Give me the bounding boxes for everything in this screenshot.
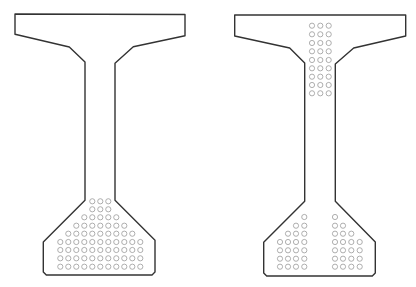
- strand-circle: [114, 264, 119, 269]
- strand-circle: [349, 239, 354, 244]
- strand-circle: [277, 239, 282, 244]
- strand-circle: [106, 207, 111, 212]
- strand-circle: [318, 57, 323, 62]
- strand-circle: [98, 215, 103, 220]
- strand-circle: [302, 214, 307, 219]
- top-web-strands: [309, 23, 331, 96]
- strand-circle: [74, 231, 79, 236]
- strand-circle: [318, 82, 323, 87]
- strand-circle: [130, 256, 135, 261]
- strand-circle: [326, 23, 331, 28]
- strand-circle: [293, 264, 298, 269]
- strand-circle: [285, 248, 290, 253]
- bottom-left-strands: [277, 214, 307, 269]
- strand-circle: [122, 239, 127, 244]
- strand-circle: [326, 82, 331, 87]
- strand-circle: [326, 66, 331, 71]
- right-beam-section: [235, 15, 406, 276]
- strand-circle: [106, 247, 111, 252]
- strand-circle: [98, 207, 103, 212]
- strand-circle: [138, 247, 143, 252]
- strand-circle: [130, 231, 135, 236]
- strand-circle: [66, 231, 71, 236]
- strand-circle: [122, 231, 127, 236]
- strand-circle: [66, 256, 71, 261]
- strand-circle: [122, 264, 127, 269]
- strand-circle: [302, 231, 307, 236]
- strand-circle: [302, 264, 307, 269]
- strand-circle: [340, 256, 345, 261]
- strand-circle: [332, 231, 337, 236]
- strand-circle: [82, 247, 87, 252]
- strand-circle: [114, 256, 119, 261]
- strand-circle: [326, 74, 331, 79]
- strand-circle: [82, 215, 87, 220]
- strand-circle: [326, 57, 331, 62]
- strand-circle: [277, 264, 282, 269]
- strand-circle: [309, 49, 314, 54]
- strand-circle: [349, 256, 354, 261]
- bottom-strands: [58, 199, 143, 270]
- left-beam-outline: [15, 14, 185, 275]
- strand-circle: [106, 264, 111, 269]
- strand-circle: [90, 215, 95, 220]
- diagram-canvas: [0, 0, 416, 287]
- strand-circle: [58, 256, 63, 261]
- strand-circle: [340, 264, 345, 269]
- strand-circle: [309, 66, 314, 71]
- strand-circle: [357, 239, 362, 244]
- strand-circle: [302, 256, 307, 261]
- strand-circle: [98, 199, 103, 204]
- strand-circle: [74, 256, 79, 261]
- strand-circle: [82, 256, 87, 261]
- left-beam-section: [15, 14, 185, 275]
- strand-circle: [293, 239, 298, 244]
- strand-circle: [318, 66, 323, 71]
- strand-circle: [114, 215, 119, 220]
- strand-circle: [122, 256, 127, 261]
- strand-circle: [332, 223, 337, 228]
- strand-circle: [302, 223, 307, 228]
- strand-circle: [130, 239, 135, 244]
- strand-circle: [122, 247, 127, 252]
- strand-circle: [138, 256, 143, 261]
- strand-circle: [332, 264, 337, 269]
- strand-circle: [138, 239, 143, 244]
- strand-circle: [309, 23, 314, 28]
- bottom-right-strands: [332, 214, 362, 269]
- right-beam-strands: [277, 23, 362, 269]
- strand-circle: [318, 49, 323, 54]
- strand-circle: [302, 239, 307, 244]
- strand-circle: [293, 248, 298, 253]
- strand-circle: [106, 223, 111, 228]
- strand-circle: [98, 223, 103, 228]
- strand-circle: [74, 223, 79, 228]
- strand-circle: [74, 264, 79, 269]
- strand-circle: [90, 207, 95, 212]
- strand-circle: [318, 40, 323, 45]
- strand-circle: [277, 248, 282, 253]
- strand-circle: [130, 264, 135, 269]
- strand-circle: [82, 231, 87, 236]
- strand-circle: [74, 239, 79, 244]
- strand-circle: [90, 199, 95, 204]
- strand-circle: [340, 239, 345, 244]
- strand-circle: [74, 247, 79, 252]
- strand-circle: [58, 247, 63, 252]
- strand-circle: [357, 264, 362, 269]
- strand-circle: [90, 239, 95, 244]
- strand-circle: [130, 247, 135, 252]
- strand-circle: [349, 264, 354, 269]
- strand-circle: [98, 256, 103, 261]
- strand-circle: [114, 239, 119, 244]
- strand-circle: [318, 23, 323, 28]
- strand-circle: [277, 256, 282, 261]
- strand-circle: [106, 215, 111, 220]
- strand-circle: [318, 74, 323, 79]
- strand-circle: [58, 264, 63, 269]
- strand-circle: [82, 239, 87, 244]
- strand-circle: [357, 248, 362, 253]
- strand-circle: [106, 199, 111, 204]
- strand-circle: [90, 256, 95, 261]
- strand-circle: [293, 223, 298, 228]
